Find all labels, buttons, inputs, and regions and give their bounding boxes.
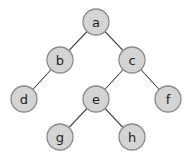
tree-node-f: f [155, 86, 181, 112]
tree-node-a: a [83, 9, 109, 35]
tree-node-g: g [47, 124, 73, 150]
tree-node-h: h [119, 124, 145, 150]
node-label: b [56, 53, 64, 68]
node-label: d [20, 92, 28, 107]
node-label: g [56, 130, 64, 145]
edges [24, 22, 168, 137]
node-label: h [128, 130, 136, 145]
tree-node-b: b [47, 47, 73, 73]
tree-node-d: d [11, 86, 37, 112]
tree-node-e: e [83, 86, 109, 112]
node-label: e [92, 92, 100, 107]
nodes: abcdefgh [11, 9, 181, 150]
node-label: f [166, 92, 171, 107]
node-label: a [92, 15, 100, 30]
tree-node-c: c [119, 47, 145, 73]
node-label: c [128, 53, 135, 68]
tree-diagram: abcdefgh [0, 0, 185, 162]
